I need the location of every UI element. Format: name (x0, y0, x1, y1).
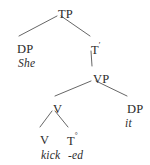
edge-v-to-v-lower (40, 111, 52, 127)
terminal-ed-label: -ed (68, 149, 83, 161)
terminal-ed: -ed (68, 150, 83, 162)
node-t-zero-label: T (67, 134, 75, 148)
node-v-upper-label: V (53, 102, 62, 116)
terminal-she: She (18, 58, 35, 70)
terminal-kick-label: kick (41, 149, 60, 161)
node-t-bar: T′ (91, 43, 101, 57)
node-t-bar-label: T (91, 43, 99, 57)
node-v-lower: V (40, 134, 49, 147)
prime-mark: ′ (99, 41, 101, 50)
node-v-lower-label: V (40, 133, 49, 147)
terminal-it: it (125, 118, 132, 130)
edge-vp-to-v-upper (55, 81, 91, 96)
node-dp-object-label: DP (127, 102, 143, 116)
terminal-it-label: it (125, 117, 132, 129)
node-dp-object: DP (127, 103, 143, 116)
node-dp-subject-label: DP (17, 42, 33, 56)
node-dp-subject: DP (17, 43, 33, 56)
node-tp: TP (58, 8, 73, 21)
node-tp-label: TP (58, 7, 73, 21)
terminal-she-label: She (18, 57, 35, 69)
node-vp-label: VP (93, 72, 109, 86)
degree-mark: ° (75, 131, 78, 140)
terminal-kick: kick (41, 150, 60, 162)
node-v-upper: V (53, 103, 62, 116)
edge-tp-to-dp-subject (19, 16, 57, 36)
syntax-tree-diagram: TP DP She T′ VP V DP it V T° kick -ed (0, 0, 150, 165)
node-vp: VP (93, 73, 109, 86)
node-t-zero: T° (67, 134, 78, 148)
